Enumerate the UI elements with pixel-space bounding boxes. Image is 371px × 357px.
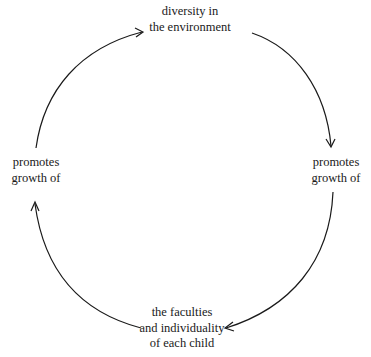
arc-top-to-right xyxy=(252,33,331,146)
node-line: growth of xyxy=(0,171,76,187)
node-promotes-growth-left: promotes growth of xyxy=(0,155,76,186)
node-promotes-growth-right: promotes growth of xyxy=(296,155,371,186)
node-line: and individuality xyxy=(122,321,242,337)
node-line: of each child xyxy=(122,336,242,352)
node-line: the environment xyxy=(130,20,250,36)
node-line: the faculties xyxy=(122,305,242,321)
node-line: promotes xyxy=(0,155,76,171)
node-line: growth of xyxy=(296,171,371,187)
arc-left-to-top xyxy=(36,32,142,148)
arc-right-to-bottom xyxy=(226,192,333,328)
node-line: promotes xyxy=(296,155,371,171)
node-line: diversity in xyxy=(130,4,250,20)
node-diversity-in-environment: diversity in the environment xyxy=(130,4,250,35)
node-faculties-of-child: the faculties and individuality of each … xyxy=(122,305,242,352)
